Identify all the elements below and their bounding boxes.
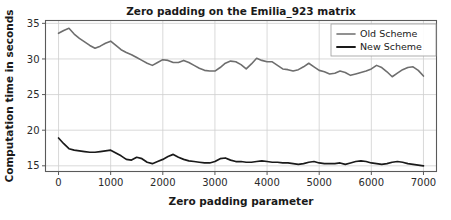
chart-title: Zero padding on the Emilia_923 matrix: [126, 5, 356, 18]
y-tick-label: 15: [27, 160, 40, 171]
x-tick-label: 3000: [202, 177, 227, 188]
x-tick-label: 4000: [254, 177, 279, 188]
x-tick-label: 5000: [306, 177, 331, 188]
x-axis-label: Zero padding parameter: [169, 195, 315, 207]
chart-legend[interactable]: Old SchemeNew Scheme: [331, 24, 436, 56]
y-axis-ticks: 1520253035: [27, 18, 46, 171]
legend-label-old-scheme: Old Scheme: [360, 28, 418, 39]
x-tick-label: 2000: [150, 177, 175, 188]
x-tick-label: 7000: [411, 177, 436, 188]
x-tick-label: 6000: [359, 177, 384, 188]
y-tick-label: 30: [27, 54, 40, 65]
y-tick-label: 20: [27, 125, 40, 136]
chart-title-group: Zero padding on the Emilia_923 matrix: [126, 5, 356, 18]
chart-figure: Zero padding on the Emilia_923 matrix 01…: [0, 0, 451, 220]
series-line-new-scheme: [59, 138, 424, 166]
y-tick-label: 25: [27, 89, 40, 100]
x-tick-label: 1000: [98, 177, 123, 188]
chart-canvas: Zero padding on the Emilia_923 matrix 01…: [0, 0, 451, 220]
y-axis-label: Computation time in seconds: [3, 9, 15, 182]
y-tick-label: 35: [27, 18, 40, 29]
x-tick-label: 0: [55, 177, 61, 188]
legend-label-new-scheme: New Scheme: [360, 41, 422, 52]
x-axis-ticks: 01000200030004000500060007000: [55, 172, 436, 188]
